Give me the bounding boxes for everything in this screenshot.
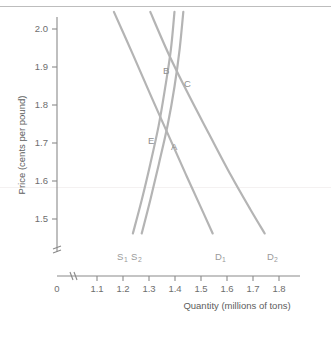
demand-curve-d1	[114, 12, 213, 234]
x-tick-label-1.7: 1.7	[246, 283, 259, 294]
plot-area: 2.0 1.9 1.8 1.7 1.6 1.5 Price (cents per…	[0, 0, 331, 337]
curve-end-label-d1-sub: 1	[222, 256, 226, 263]
x-tick-label-1.8: 1.8	[272, 283, 285, 294]
x-tick-label-1.1: 1.1	[90, 283, 103, 294]
y-tick-label-2.0: 2.0	[35, 23, 48, 34]
curve-end-label-d1: D 1	[215, 251, 226, 263]
curve-end-label-s1: S 1	[117, 251, 128, 263]
curve-end-label-d2: D 2	[267, 251, 278, 263]
x-axis-title: Quantity (millions of tons)	[183, 300, 290, 311]
x-tick-label-1.5: 1.5	[194, 283, 207, 294]
y-tick-label-1.8: 1.8	[35, 99, 48, 110]
x-tick-label-0: 0	[54, 283, 59, 294]
chart-figure: 2.0 1.9 1.8 1.7 1.6 1.5 Price (cents per…	[0, 0, 331, 337]
curve-end-labels: S 1 S 2 D 1 D 2	[117, 251, 278, 263]
curve-end-label-s1-sub: 1	[124, 256, 128, 263]
x-tick-label-1.3: 1.3	[142, 283, 155, 294]
point-label-e: E	[148, 135, 154, 146]
curve-end-label-d1-text: D	[215, 251, 222, 262]
curve-end-label-s1-text: S	[117, 251, 123, 262]
x-tick-label-1.2: 1.2	[116, 283, 129, 294]
y-tick-label-1.9: 1.9	[35, 61, 48, 72]
x-tick-label-1.4: 1.4	[168, 283, 181, 294]
x-axis: 0 1.1 1.2 1.3 1.4 1.5 1.6 1.7 1.8 Quanti…	[54, 272, 300, 311]
curve-end-label-s2-sub: 2	[138, 256, 142, 263]
curve-end-label-s2: S 2	[131, 251, 142, 263]
curve-end-label-s2-text: S	[131, 251, 137, 262]
y-axis: 2.0 1.9 1.8 1.7 1.6 1.5 Price (cents per…	[16, 17, 61, 253]
x-tick-label-1.6: 1.6	[220, 283, 233, 294]
point-label-b: B	[163, 65, 169, 76]
point-label-c: C	[184, 78, 191, 89]
curves-group	[114, 12, 265, 234]
y-tick-label-1.6: 1.6	[35, 175, 48, 186]
y-tick-label-1.7: 1.7	[35, 137, 48, 148]
y-tick-label-1.5: 1.5	[35, 213, 48, 224]
curve-end-label-d2-text: D	[267, 251, 274, 262]
y-axis-title: Price (cents per pound)	[16, 96, 27, 195]
curve-end-label-d2-sub: 2	[274, 256, 278, 263]
point-label-a: A	[171, 141, 178, 152]
